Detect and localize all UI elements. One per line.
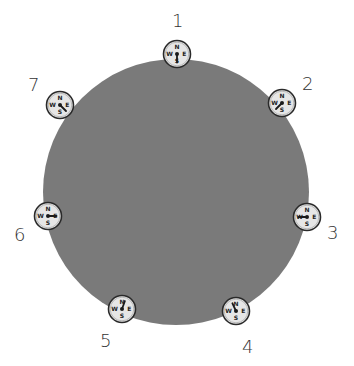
compass-letter-n: N xyxy=(279,92,284,99)
compass-letter-e: E xyxy=(312,213,316,220)
compass-letter-w: W xyxy=(166,50,173,57)
compass-label-7: 7 xyxy=(28,76,39,94)
compass-label-5: 5 xyxy=(100,332,111,350)
compass-letter-w: W xyxy=(111,305,118,312)
compass-7: NESW xyxy=(45,90,75,120)
compass-label-3: 3 xyxy=(327,224,338,242)
compass-letter-s: S xyxy=(46,219,50,226)
compass-6: NESW xyxy=(33,201,63,231)
compass-label-4: 4 xyxy=(242,338,253,356)
compass-letter-e: E xyxy=(287,99,291,106)
compass-icon: NESW xyxy=(107,294,137,324)
compass-letter-n: N xyxy=(174,43,179,50)
compass-letter-n: N xyxy=(45,205,50,212)
compass-letter-w: W xyxy=(37,212,44,219)
compass-letter-s: S xyxy=(58,108,62,115)
compass-letter-s: S xyxy=(305,220,309,227)
compass-letter-w: W xyxy=(49,101,56,108)
compass-letter-n: N xyxy=(57,94,62,101)
compass-icon: NESW xyxy=(221,296,251,326)
compass-label-6: 6 xyxy=(14,226,25,244)
compass-4: NESW xyxy=(221,296,251,326)
compass-letter-e: E xyxy=(65,101,69,108)
compass-letter-s: S xyxy=(234,314,238,321)
compass-icon: NESW xyxy=(162,39,192,69)
compass-icon: NESW xyxy=(292,202,322,232)
compass-letter-e: E xyxy=(241,307,245,314)
compass-letter-w: W xyxy=(225,307,232,314)
compass-1: NESW xyxy=(162,39,192,69)
compass-letter-e: E xyxy=(182,50,186,57)
compass-letter-e: E xyxy=(127,305,131,312)
compass-diagram: NESW1NESW2NESW3NESW4NESW5NESW6NESW7 xyxy=(0,0,354,366)
compass-icon: NESW xyxy=(267,88,297,118)
compass-letter-s: S xyxy=(280,106,284,113)
compass-letter-s: S xyxy=(120,312,124,319)
compass-2: NESW xyxy=(267,88,297,118)
compass-icon: NESW xyxy=(45,90,75,120)
compass-3: NESW xyxy=(292,202,322,232)
compass-label-1: 1 xyxy=(172,12,183,30)
compass-letter-w: W xyxy=(271,99,278,106)
compass-label-2: 2 xyxy=(302,75,313,93)
compass-5: NESW xyxy=(107,294,137,324)
compass-icon: NESW xyxy=(33,201,63,231)
compass-letter-n: N xyxy=(304,206,309,213)
